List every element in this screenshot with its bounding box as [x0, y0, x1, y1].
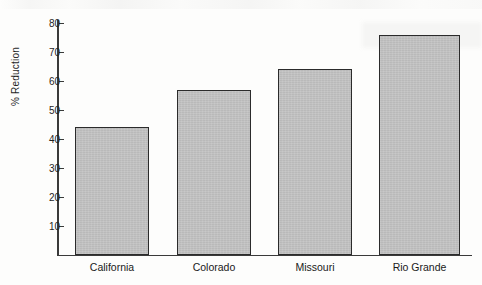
- x-axis-label-colorado: Colorado: [193, 261, 236, 273]
- bar-rio-grande: [379, 35, 460, 255]
- bars-layer: [0, 0, 482, 285]
- bar-california: [75, 127, 149, 255]
- x-axis-label-missouri: Missouri: [295, 261, 334, 273]
- bar-colorado: [177, 90, 251, 255]
- bar-chart-figure: % Reduction 8070605040302010 CaliforniaC…: [0, 0, 482, 285]
- x-axis-label-rio-grande: Rio Grande: [393, 261, 447, 273]
- x-axis-label-california: California: [90, 261, 134, 273]
- bar-missouri: [278, 69, 352, 255]
